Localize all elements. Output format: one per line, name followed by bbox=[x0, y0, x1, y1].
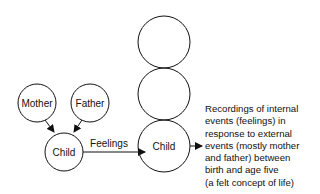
desc-line: response to external bbox=[205, 128, 299, 140]
mother-label: Mother bbox=[21, 98, 52, 109]
stack-circle-top bbox=[138, 16, 190, 68]
recordings-description: Recordings of internal events (feelings)… bbox=[205, 103, 299, 189]
feelings-label: Feelings bbox=[90, 138, 128, 149]
stack-circle-middle bbox=[138, 68, 190, 120]
desc-line: and father) between bbox=[205, 152, 299, 164]
child-small-label: Child bbox=[53, 147, 76, 158]
mother-to-child-arrow bbox=[45, 120, 54, 132]
desc-line: events (feelings) in bbox=[205, 115, 299, 127]
father-to-child-arrow bbox=[74, 120, 82, 132]
desc-line: birth and age five bbox=[205, 164, 299, 176]
father-label: Father bbox=[76, 98, 105, 109]
desc-line: (a felt concept of life) bbox=[205, 177, 299, 189]
desc-line: events (mostly mother bbox=[205, 140, 299, 152]
desc-line: Recordings of internal bbox=[205, 103, 299, 115]
child-large-label: Child bbox=[153, 141, 176, 152]
